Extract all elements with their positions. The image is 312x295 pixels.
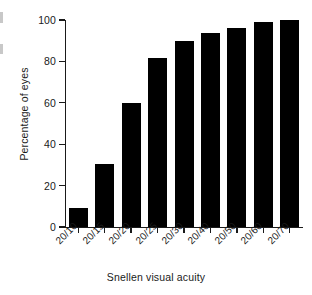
edge-crop-artifact	[0, 44, 3, 54]
y-axis-tick	[59, 61, 65, 62]
bar	[122, 103, 141, 227]
bar	[201, 33, 220, 227]
bar	[227, 28, 246, 227]
y-axis-tick-label: 0	[0, 222, 56, 233]
x-axis-tick-label: 20/10	[54, 221, 79, 246]
y-axis-tick	[59, 185, 65, 186]
bar-chart-figure: 020406080100 20/1020/1520/2020/2520/3020…	[0, 0, 312, 295]
y-axis-tick-label: 100	[0, 15, 56, 26]
bar	[148, 58, 167, 227]
bar	[254, 22, 273, 227]
y-axis-line	[65, 20, 66, 228]
bar	[95, 164, 114, 227]
y-axis-tick	[59, 102, 65, 103]
y-axis-tick	[59, 19, 65, 20]
bar	[175, 41, 194, 227]
y-axis-tick	[59, 144, 65, 145]
y-axis-title: Percentage of eyes	[18, 44, 30, 184]
bar	[280, 20, 299, 227]
x-axis-title: Snellen visual acuity	[0, 271, 312, 283]
